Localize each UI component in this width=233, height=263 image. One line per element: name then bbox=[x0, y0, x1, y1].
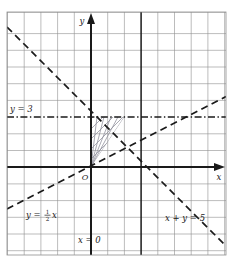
x-axis-label: x bbox=[217, 172, 222, 182]
label-y-half-x-suffix: x bbox=[52, 210, 57, 220]
label-y-half-x-denominator: 2 bbox=[46, 216, 50, 222]
label-x-plus-y-equals-5: x + y = 5 bbox=[165, 213, 205, 223]
graph-figure: y x O y = 3 x = 0 x + y = 5 y = 1 2 x bbox=[0, 0, 233, 263]
label-y-equals-3: y = 3 bbox=[9, 104, 33, 114]
label-y-half-x-numerator: 1 bbox=[46, 209, 50, 215]
label-y-half-x-prefix: y = bbox=[25, 210, 41, 220]
graph-canvas: y x O y = 3 x = 0 x + y = 5 y = 1 2 x bbox=[0, 0, 233, 263]
origin-label: O bbox=[82, 173, 89, 182]
y-axis-label: y bbox=[79, 16, 85, 26]
label-x-equals-0: x = 0 bbox=[78, 235, 101, 245]
